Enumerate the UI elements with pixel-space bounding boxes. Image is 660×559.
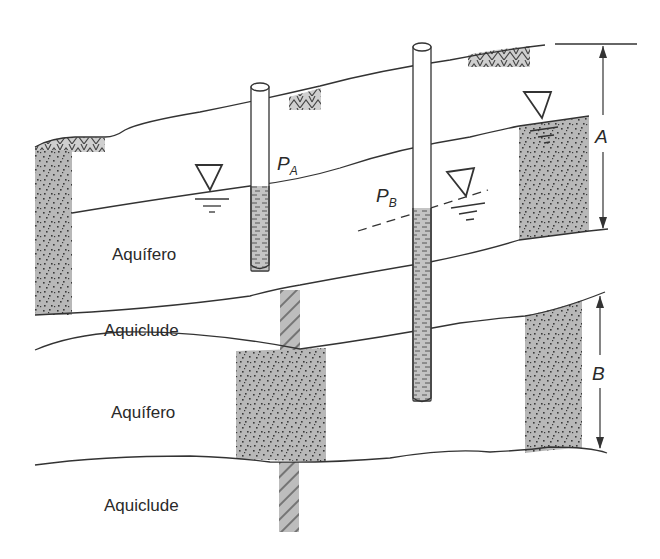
upper-aquifer-bottom-line [35, 229, 608, 315]
piezometric-icon-b [447, 168, 485, 220]
sand-column-left [35, 150, 72, 315]
layer-label-upper-aquifer: Aquífero [112, 245, 176, 264]
aquifer-cross-section-diagram: A B PA PB Aquífero Aquiclude Aquífero Aq… [0, 0, 660, 559]
piezometer-b [413, 43, 431, 402]
piezometer-a [251, 83, 269, 271]
water-table-icon-upper [195, 165, 229, 212]
aquiclude-core-upper [280, 290, 300, 350]
water-table-line [72, 116, 589, 213]
sand-column-right-upper [519, 116, 589, 240]
piezometer-a-label: PA [277, 153, 298, 178]
layer-label-lower-aquiclude: Aquiclude [104, 496, 179, 515]
sand-column-middle-lower [236, 348, 326, 462]
piezometer-b-label: PB [376, 185, 397, 210]
dimension-a-label: A [594, 126, 608, 147]
layer-label-upper-aquiclude: Aquiclude [104, 321, 179, 340]
aquiclude-core-lower [279, 462, 299, 532]
dimension-b-label: B [592, 363, 605, 384]
layer-label-lower-aquifer: Aquífero [111, 403, 175, 422]
sand-column-right-lower [525, 300, 582, 453]
